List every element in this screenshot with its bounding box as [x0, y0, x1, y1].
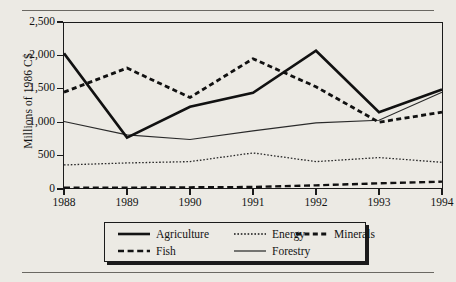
series-line-agriculture — [64, 51, 442, 138]
series-line-fish — [64, 182, 442, 188]
legend-row: AgricultureEnergyMinerals — [105, 225, 365, 243]
legend-item-forestry[interactable]: Forestry — [233, 242, 310, 260]
series-line-minerals — [64, 59, 442, 122]
dashed-thick-swatch — [295, 228, 329, 240]
legend-item-agriculture[interactable]: Agriculture — [117, 225, 209, 243]
x-tick-label: 1993 — [354, 196, 404, 208]
y-tick-label: 1,500 — [8, 82, 55, 94]
legend-row: FishForestry — [105, 242, 365, 260]
legend-label: Minerals — [334, 228, 375, 240]
y-tick-label: 0 — [8, 183, 55, 195]
x-tick-mark — [378, 189, 379, 195]
x-tick-label: 1989 — [102, 196, 152, 208]
chart-page: Millions of 1986 C$ 05001,0001,5002,0002… — [0, 0, 456, 282]
legend-label: Agriculture — [156, 228, 209, 240]
x-tick-label: 1991 — [228, 196, 278, 208]
x-tick-mark — [126, 189, 127, 195]
y-tick-label: 2,500 — [8, 16, 55, 28]
x-tick-label: 1994 — [417, 196, 456, 208]
series-line-forestry — [64, 92, 442, 139]
y-tick-label: 1,000 — [8, 116, 55, 128]
x-tick-label: 1988 — [39, 196, 89, 208]
x-tick-label: 1990 — [165, 196, 215, 208]
x-tick-mark — [189, 189, 190, 195]
solid-thick-swatch — [117, 228, 151, 240]
dashed-medium-swatch — [117, 245, 151, 257]
chart-legend: AgricultureEnergyMinerals FishForestry — [104, 222, 366, 262]
legend-item-fish[interactable]: Fish — [117, 242, 176, 260]
x-tick-mark — [315, 189, 316, 195]
solid-thin-swatch — [233, 245, 267, 257]
y-tick-label: 2,000 — [8, 49, 55, 61]
x-tick-mark — [63, 189, 64, 195]
legend-label: Fish — [156, 245, 176, 257]
x-tick-mark — [441, 189, 442, 195]
x-tick-label: 1992 — [291, 196, 341, 208]
series-line-energy — [64, 153, 442, 165]
x-tick-mark — [252, 189, 253, 195]
legend-label: Forestry — [272, 245, 310, 257]
top-divider-rule — [22, 10, 434, 11]
bottom-divider-rule — [22, 272, 434, 273]
series-lines — [63, 22, 443, 189]
legend-item-minerals[interactable]: Minerals — [295, 225, 375, 243]
y-tick-label: 500 — [8, 149, 55, 161]
dotted-thin-swatch — [233, 228, 267, 240]
